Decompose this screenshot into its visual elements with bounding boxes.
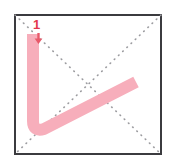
stroke-order-diagram: 1: [0, 0, 177, 166]
stroke-1-path: [33, 34, 136, 130]
stroke-start-direction-marker: [34, 33, 43, 44]
stroke-number-label: 1: [33, 18, 40, 31]
